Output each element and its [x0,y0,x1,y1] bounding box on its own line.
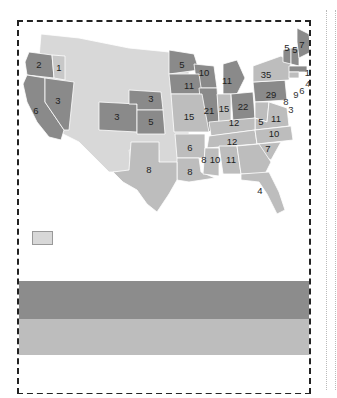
svg-text:15: 15 [184,111,195,122]
svg-text:12: 12 [229,117,240,128]
svg-text:5: 5 [292,44,297,55]
svg-text:3: 3 [114,111,119,122]
svg-text:6: 6 [187,142,192,153]
svg-text:8: 8 [201,154,206,165]
svg-text:11: 11 [184,80,194,91]
svg-text:3: 3 [288,104,293,115]
svg-text:11: 11 [222,75,232,86]
page-edge-dots [326,10,336,390]
svg-text:7: 7 [299,39,304,50]
table-row-cooper [19,355,309,393]
svg-text:4: 4 [257,185,262,196]
svg-text:5: 5 [179,59,184,70]
svg-text:10: 10 [210,154,221,165]
svg-text:35: 35 [261,69,272,80]
svg-text:7: 7 [265,143,270,154]
svg-text:21: 21 [204,105,215,116]
svg-text:5: 5 [284,42,289,53]
svg-text:6: 6 [33,105,38,116]
svg-text:13: 13 [305,67,309,78]
table-row-hayes [19,281,309,319]
svg-text:10: 10 [269,128,280,139]
legend [32,231,59,245]
svg-text:1: 1 [56,62,61,73]
legend-swatch-nonvoting [32,231,53,245]
svg-text:11: 11 [226,154,236,165]
svg-text:11: 11 [271,113,281,124]
svg-text:8: 8 [187,166,192,177]
svg-text:10: 10 [199,67,210,78]
svg-text:5: 5 [148,116,153,127]
state-florida [241,172,285,214]
table-row-tilden [19,319,309,355]
svg-text:15: 15 [219,103,230,114]
svg-text:3: 3 [148,93,153,104]
svg-text:4: 4 [305,78,309,89]
svg-text:22: 22 [238,101,249,112]
svg-text:3: 3 [55,95,60,106]
state-connecticut [289,72,299,78]
svg-text:5: 5 [258,116,263,127]
svg-text:6: 6 [299,85,304,96]
svg-text:2: 2 [36,59,41,70]
election-map: 2 1 6 3 3 3 5 5 11 10 21 15 11 15 22 29 … [19,22,309,222]
svg-text:9: 9 [293,89,298,100]
svg-text:29: 29 [266,89,277,100]
svg-text:8: 8 [146,164,151,175]
svg-text:12: 12 [227,136,238,147]
